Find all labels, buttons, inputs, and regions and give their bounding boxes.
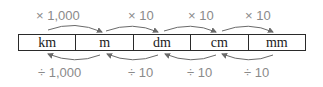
- arrow-km-to-m: [48, 25, 102, 32]
- arrow-mm-to-cm: [222, 54, 273, 60]
- unit-conversion-diagram: × 1,000 × 10 × 10 × 10 km m dm cm mm ÷ 1…: [0, 0, 323, 87]
- arrow-dm-to-cm: [164, 26, 216, 32]
- unit-m: m: [76, 35, 133, 50]
- arrow-cm-to-dm: [165, 54, 216, 60]
- divide-label-m-km: ÷ 1,000: [38, 66, 81, 80]
- divide-label-dm-m: ÷ 10: [128, 66, 153, 80]
- arrow-dm-to-m: [107, 54, 158, 60]
- unit-mm: mm: [249, 35, 305, 50]
- unit-cm: cm: [191, 35, 248, 50]
- arrow-m-to-dm: [106, 26, 158, 32]
- units-table: km m dm cm mm: [18, 34, 306, 51]
- arrow-m-to-km: [48, 54, 100, 60]
- unit-km: km: [19, 35, 76, 50]
- divide-label-cm-dm: ÷ 10: [187, 66, 212, 80]
- divide-label-mm-cm: ÷ 10: [244, 66, 269, 80]
- unit-dm: dm: [134, 35, 191, 50]
- arrow-cm-to-mm: [222, 26, 273, 32]
